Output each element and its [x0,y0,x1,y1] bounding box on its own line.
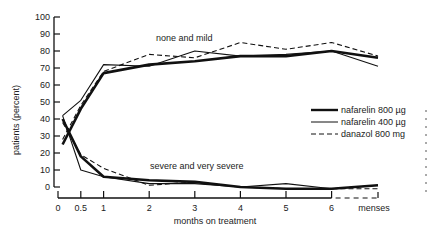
x-tick-label: 0.5 [75,203,88,213]
x-tick-label: 6 [329,203,334,213]
legend-label-nafarelin-400: nafarelin 400 µg [341,117,406,127]
y-tick-label: 30 [40,131,50,141]
x-tick-label: 2 [147,203,152,213]
annotation-none-and-mild: none and mild [156,33,213,43]
series-line-danazol-800-mg-none-mild [63,43,378,140]
x-tick-label-menses: menses [358,203,390,213]
y-tick-label: 40 [40,114,50,124]
chart: 0102030405060708090100 00.5123456menses … [0,0,428,238]
y-axis-label: patients (percent) [11,85,21,155]
y-tick-label: 10 [40,165,50,175]
y-tick-label: 20 [40,148,50,158]
x-tick-label: 1 [101,203,106,213]
y-tick-label: 60 [40,80,50,90]
y-tick-label: 70 [40,63,50,73]
series-line-nafarelin-400-g-severe [63,116,378,189]
x-tick-label: 4 [238,203,243,213]
y-tick-label: 0 [45,182,50,192]
x-tick-label: 5 [283,203,288,213]
legend-label-nafarelin-800: nafarelin 800 µg [341,105,406,115]
y-tick-label: 90 [40,29,50,39]
y-axis: 0102030405060708090100 [35,12,60,192]
series-line-nafarelin-400-g-none-mild [63,51,378,116]
legend-label-danazol-800: danazol 800 mg [341,129,405,139]
x-axis: 00.5123456menses [55,191,390,213]
x-tick-label: 3 [192,203,197,213]
x-axis-label: months on treatment [174,216,257,226]
legend: nafarelin 800 µg nafarelin 400 µg danazo… [311,105,406,139]
series-line-danazol-800-mg-severe [63,122,378,188]
x-tick-label: 0 [55,203,60,213]
y-tick-label: 50 [40,97,50,107]
annotation-severe-and-very-severe: severe and very severe [150,161,244,171]
y-tick-label: 80 [40,46,50,56]
y-tick-label: 100 [35,12,50,22]
